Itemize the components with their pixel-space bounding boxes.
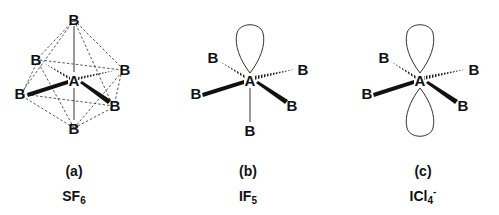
ligand-atom-back-right: B [469,61,480,78]
hashed-bond-back-right [424,69,467,80]
lone-pair-lobe-top [406,25,434,73]
central-atom-a: A [69,72,80,89]
ligand-atom-front-right: B [110,97,121,114]
formula-subscript: 5 [251,195,257,206]
panel-b-structure: A B B B B B [191,25,309,139]
formula-subscript: 6 [80,195,86,206]
hashed-bond-back-left [219,61,246,79]
lone-pair-lobe-top [236,25,264,73]
panel-c-formula: ICl4- [383,186,463,206]
ligand-atom-front-left: B [15,85,26,102]
hashed-bond-back-left [44,63,70,80]
panel-a-structure: A B B B B B B [15,11,131,137]
lone-pair-lobe-bottom [406,88,434,136]
ligand-atom-front-right: B [458,97,469,114]
ligand-atom-back-right: B [298,61,309,78]
panel-a-formula: SF6 [34,186,114,206]
ligand-atom-bottom: B [245,122,256,139]
formula-base: IF [239,188,251,204]
wedge-bond-front-right [80,81,111,104]
ligand-atom-bottom: B [69,120,80,137]
central-atom-a: A [245,72,256,89]
panel-c-structure: A B B B B [362,25,480,137]
ligand-atom-back-right: B [120,61,131,78]
ligand-atom-back-left: B [208,49,219,66]
ligand-atom-front-left: B [191,85,202,102]
ligand-atom-front-left: B [362,85,373,102]
ligand-atom-top: B [69,11,80,28]
ligand-atom-back-left: B [379,49,390,66]
panel-a-label: (a) [34,163,114,179]
hashed-bond-back-right [254,69,296,80]
panel-c-label: (c) [383,163,463,179]
wedge-bond-front-right [256,81,288,104]
wedge-bond-front-left [202,80,244,97]
wedge-bond-front-left [27,80,68,97]
ligand-atom-front-right: B [287,97,298,114]
wedge-bond-front-left [373,80,414,97]
panel-b-label: (b) [208,163,288,179]
molecular-geometry-diagram: A B B B B B B A B B B B B A B B B B [0,0,499,215]
formula-base: SF [62,188,80,204]
formula-superscript: - [433,186,436,197]
central-atom-a: A [415,72,426,89]
hashed-bond-back-right [78,70,117,80]
hashed-bond-back-left [390,61,416,79]
formula-base: ICl [410,188,428,204]
wedge-bond-front-right [426,81,458,104]
ligand-atom-back-left: B [31,51,42,68]
panel-b-formula: IF5 [208,186,288,206]
